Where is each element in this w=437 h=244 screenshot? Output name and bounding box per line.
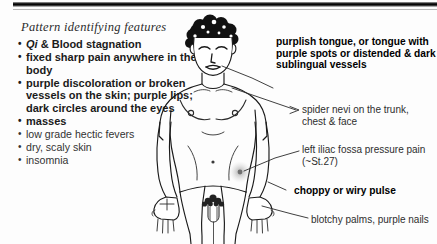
- annotation-pulse: choppy or wiry pulse: [294, 185, 434, 197]
- annotation-palms: blotchy palms, purple nails: [311, 214, 435, 226]
- chest: [180, 100, 246, 120]
- bullet-glyph: •: [18, 51, 26, 64]
- left-hand: [154, 197, 179, 220]
- qi-term: Qi: [26, 38, 38, 50]
- annotation-iliac-fossa: left iliac fossa pressure pain (~St.27): [302, 144, 436, 167]
- st27-marker: [229, 161, 251, 183]
- slide-canvas: Pattern identifying features • Qi & Bloo…: [0, 0, 437, 244]
- bullet-glyph: •: [18, 38, 26, 51]
- right-hand: [247, 197, 272, 220]
- annotation-tongue: purplish tongue, or tongue with purple s…: [276, 36, 436, 71]
- top-thin-rule: [13, 9, 437, 10]
- neck-torso: [159, 73, 267, 140]
- clavicles: [194, 90, 232, 92]
- page-title: Pattern identifying features: [21, 20, 166, 35]
- annotation-spider-nevi: spider nevi on the trunk, chest & face: [302, 104, 434, 127]
- qi-rest: & Blood stagnation: [38, 38, 142, 50]
- bullet-glyph: •: [18, 115, 26, 128]
- bullet-glyph: •: [18, 154, 26, 167]
- top-decorative-bar: [13, 2, 437, 7]
- bullet-glyph: •: [18, 77, 26, 90]
- bullet-glyph: •: [18, 141, 26, 154]
- bullet-glyph: •: [18, 128, 26, 141]
